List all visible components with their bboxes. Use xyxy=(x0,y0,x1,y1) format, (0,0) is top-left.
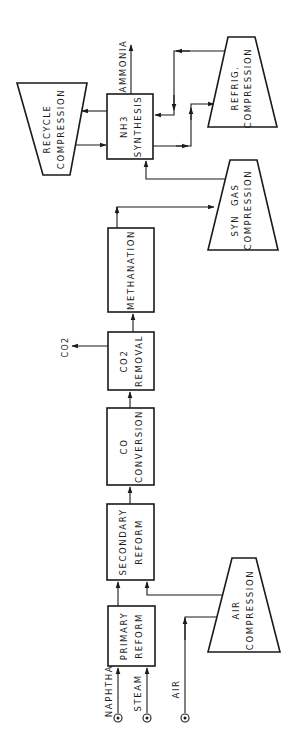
unit-co2-removal: CO2 REMOVAL xyxy=(108,332,154,390)
output-ammonia: AMMONIA xyxy=(118,39,128,92)
label-conversion: CONVERSION xyxy=(134,410,144,483)
compressor-air: AIR COMPRESSION xyxy=(208,558,280,652)
label-naphtha: NAPHTHA xyxy=(104,665,114,717)
unit-primary-reform: PRIMARY REFORM xyxy=(108,606,155,666)
input-steam: STEAM xyxy=(133,674,151,722)
unit-methanation: METHANATION xyxy=(108,228,154,312)
label-primary: PRIMARY xyxy=(119,612,129,660)
label-recycle: RECYCLE xyxy=(42,104,52,153)
label-co2-out: CO2 xyxy=(61,336,70,357)
unit-secondary-reform: SECONDARY REFORM xyxy=(107,504,154,580)
label-air-compression: COMPRESSION xyxy=(245,570,255,650)
flow-syngas-nh3 xyxy=(146,161,226,179)
label-syngas-compression: COMPRESSION xyxy=(243,170,253,250)
label-reform-1: REFORM xyxy=(134,613,144,659)
label-refrig-compression: COMPRESSION xyxy=(243,48,253,128)
label-refrig: REFRIG. xyxy=(230,65,240,110)
label-co: CO xyxy=(119,439,129,455)
process-flow-diagram: NH3 SYNTHESIS METHANATION CO2 REMOVAL CO… xyxy=(0,0,297,753)
label-steam: STEAM xyxy=(133,674,143,711)
unit-nh3-synthesis: NH3 SYNTHESIS xyxy=(107,94,153,159)
label-air: AIR xyxy=(171,679,181,698)
unit-co-conversion: CO CONVERSION xyxy=(107,408,154,485)
label-co2: CO2 xyxy=(119,350,129,373)
label-nh3: NH3 xyxy=(119,115,129,138)
input-naphtha: NAPHTHA xyxy=(104,665,122,722)
label-air-comp: AIR xyxy=(231,600,241,619)
label-secondary: SECONDARY xyxy=(118,509,128,576)
flow-methanation-syngas xyxy=(117,207,214,228)
label-synthesis: SYNTHESIS xyxy=(133,96,143,158)
label-recycle-compression: COMPRESSION xyxy=(56,89,66,169)
label-removal: REMOVAL xyxy=(134,335,144,387)
flow-nh3-refrig xyxy=(153,104,214,146)
compressor-recycle: RECYCLE COMPRESSION xyxy=(17,83,87,175)
flow-aircomp-secondary xyxy=(147,582,223,595)
input-air: AIR xyxy=(171,679,189,722)
output-co2: CO2 xyxy=(61,336,70,357)
label-ammonia: AMMONIA xyxy=(118,39,128,92)
label-reform-2: REFORM xyxy=(134,519,144,565)
label-methanation: METHANATION xyxy=(126,230,136,310)
compressor-syn-gas: SYN GAS COMPRESSION xyxy=(208,160,278,250)
label-syn-gas: SYN GAS xyxy=(230,184,240,237)
